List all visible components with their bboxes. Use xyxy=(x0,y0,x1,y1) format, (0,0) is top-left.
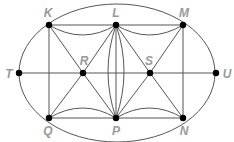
edge-K-L-curve xyxy=(49,25,116,35)
edge-L-M-curve xyxy=(116,25,183,35)
node-L xyxy=(113,22,119,28)
nodes xyxy=(16,22,219,121)
edge-L-P-curve-left xyxy=(108,25,116,118)
node-P xyxy=(113,115,119,121)
node-R xyxy=(80,70,86,76)
edge-L-P-curve-right xyxy=(116,25,124,118)
edge-P-S xyxy=(116,73,150,118)
node-label-N: N xyxy=(180,124,189,138)
node-label-K: K xyxy=(44,6,54,20)
node-label-P: P xyxy=(112,124,121,138)
node-T xyxy=(16,70,22,76)
node-M xyxy=(180,22,186,28)
edge-Q-R xyxy=(49,73,83,118)
edge-N-S xyxy=(150,73,183,118)
node-U xyxy=(213,70,219,76)
node-label-Q: Q xyxy=(43,124,53,138)
edge-P-R xyxy=(83,73,116,118)
node-label-L: L xyxy=(112,6,119,20)
edge-P-N-curve xyxy=(116,108,183,118)
node-K xyxy=(46,22,52,28)
node-label-T: T xyxy=(5,67,14,81)
edge-Q-P-curve xyxy=(49,108,116,118)
node-S xyxy=(147,70,153,76)
node-N xyxy=(180,115,186,121)
node-label-R: R xyxy=(80,54,89,68)
node-label-S: S xyxy=(145,54,153,68)
node-label-U: U xyxy=(223,67,232,81)
node-Q xyxy=(46,115,52,121)
graph-diagram: KLMTRSUQPN xyxy=(0,0,234,142)
node-label-M: M xyxy=(179,6,190,20)
